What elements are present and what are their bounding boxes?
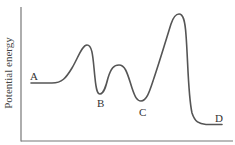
point-label-c: C xyxy=(139,106,146,118)
point-label-b: B xyxy=(97,97,104,109)
point-label-d: D xyxy=(215,112,223,124)
energy-diagram: Potential energy A B C D xyxy=(0,0,235,145)
energy-curve xyxy=(31,14,222,125)
y-axis-label: Potential energy xyxy=(1,28,15,118)
point-label-a: A xyxy=(30,70,38,82)
